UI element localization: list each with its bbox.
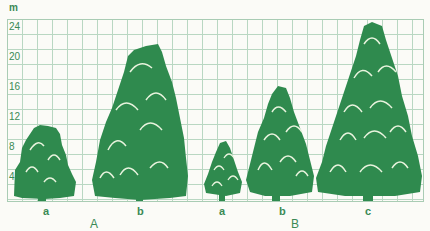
tree-b-group-a (92, 44, 188, 201)
label-a-group-a: a (43, 205, 49, 217)
y-tick-16: 16 (9, 81, 20, 92)
tree-a-group-b (204, 141, 242, 201)
label-b-group-b: b (279, 205, 286, 217)
y-axis-unit: m (9, 2, 18, 13)
label-c-group-b: c (365, 205, 371, 217)
y-tick-20: 20 (9, 51, 20, 62)
group-label-a: A (90, 217, 98, 231)
label-a-group-b: a (219, 205, 225, 217)
tree-b-group-b (246, 86, 314, 201)
y-tick-4: 4 (9, 171, 15, 182)
label-b-group-a: b (137, 205, 144, 217)
tree-a-group-a (14, 125, 76, 201)
y-tick-8: 8 (9, 141, 15, 152)
y-tick-12: 12 (9, 111, 20, 122)
y-tick-24: 24 (9, 21, 20, 32)
tree-height-diagram (0, 0, 430, 231)
tree-c-group-b (316, 22, 422, 201)
group-label-b: B (291, 217, 299, 231)
